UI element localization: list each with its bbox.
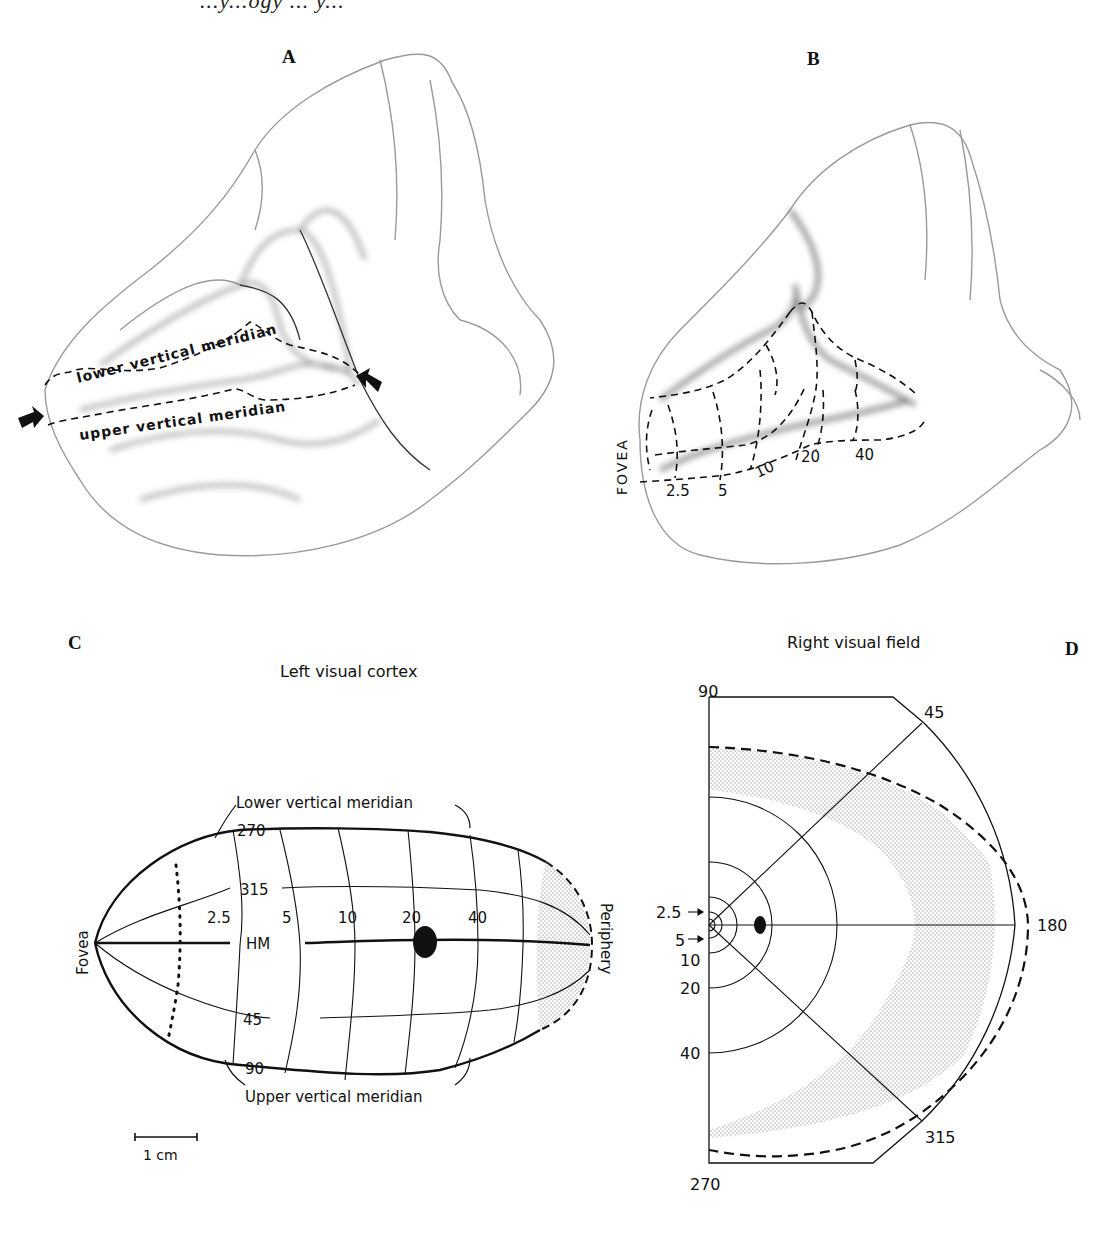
d-polar-180: 180 — [1037, 916, 1068, 935]
d-polar-315: 315 — [925, 1128, 956, 1147]
d-label-arrows — [688, 909, 703, 942]
d-stipple-band — [709, 748, 1016, 1138]
d-ecc-20: 20 — [680, 979, 700, 998]
panel-d-visual-field: 90 45 180 315 270 2.5 5 10 20 40 — [0, 0, 1107, 1238]
d-ecc-10: 10 — [680, 951, 700, 970]
d-polar-270: 270 — [690, 1175, 721, 1194]
d-ecc-40: 40 — [680, 1044, 700, 1063]
d-polar-45: 45 — [924, 703, 944, 722]
d-polar-90: 90 — [698, 682, 718, 701]
d-ecc-5: 5 — [675, 931, 685, 950]
d-blind-spot — [754, 916, 766, 934]
d-ecc-2-5: 2.5 — [656, 903, 681, 922]
